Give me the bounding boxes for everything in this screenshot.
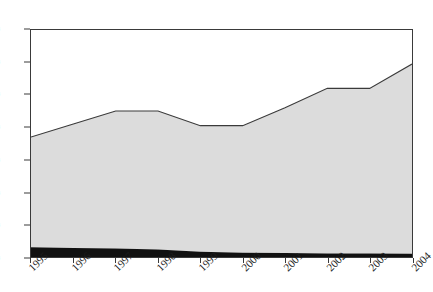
series-layer xyxy=(31,30,412,257)
y-axis: 010203040506070 xyxy=(0,0,30,292)
area-series-upper xyxy=(31,64,412,254)
plot-area xyxy=(30,29,413,258)
x-axis: 1995199619971998199920002001200220032004 xyxy=(0,258,420,292)
